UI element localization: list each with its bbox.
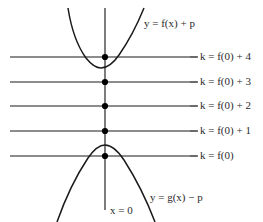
figure-graphic: [0, 0, 263, 222]
axis-label-x-equals-zero: x = 0: [110, 205, 133, 216]
level-label-1: k = f(0) + 1: [200, 125, 251, 136]
upper-curve-label: y = f(x) + p: [144, 18, 195, 29]
figure-canvas: k = f(0) + 4 k = f(0) + 3 k = f(0) + 2 k…: [0, 0, 263, 222]
label-connector-dashes: [190, 57, 198, 156]
intersection-dot-1: [102, 128, 108, 134]
intersection-dot-4: [102, 54, 108, 60]
intersection-dot-3: [102, 79, 108, 85]
level-label-4: k = f(0) + 4: [200, 51, 251, 62]
level-label-0: k = f(0): [200, 150, 234, 161]
level-label-2: k = f(0) + 2: [200, 100, 251, 111]
intersection-dot-0: [102, 153, 108, 159]
lower-curve-label: y = g(x) − p: [150, 192, 203, 203]
level-label-3: k = f(0) + 3: [200, 76, 251, 87]
intersection-dot-2: [102, 103, 108, 109]
